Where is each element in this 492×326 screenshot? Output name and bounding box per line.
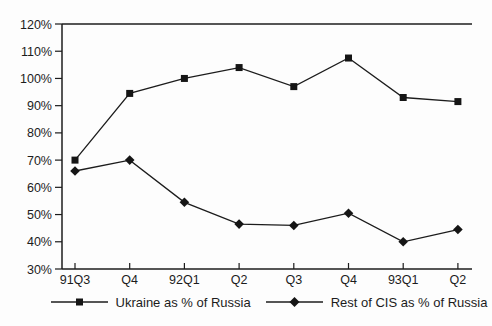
rest-of-cis-point-marker: [453, 225, 463, 235]
x-tick-label: 91Q3: [60, 273, 91, 287]
y-tick-label: 110%: [21, 45, 52, 59]
y-tick-label: 100%: [20, 72, 52, 86]
y-tick-label: 80%: [27, 126, 52, 140]
line-chart-plot: 30%40%50%60%70%80%90%100%110%120%91Q3Q49…: [0, 0, 492, 290]
legend-item-ukraine: Ukraine as % of Russia: [51, 295, 251, 310]
rest-of-cis-line: [75, 160, 458, 242]
square-marker-icon: [51, 296, 108, 308]
x-tick-label: Q4: [121, 273, 138, 287]
ukraine-point-marker: [126, 90, 133, 97]
chart-legend: Ukraine as % of Russia Rest of CIS as % …: [0, 290, 492, 314]
rest-of-cis-point-marker: [70, 166, 80, 176]
ukraine-point-marker: [72, 157, 79, 164]
rest-of-cis-point-marker: [398, 237, 408, 247]
y-tick-label: 70%: [27, 154, 52, 168]
ukraine-point-marker: [400, 94, 407, 101]
rest-of-cis-point-marker: [344, 208, 354, 218]
x-tick-label: Q3: [285, 273, 302, 287]
y-tick-label: 120%: [20, 18, 52, 32]
y-tick-label: 90%: [27, 99, 52, 113]
ukraine-point-marker: [454, 98, 461, 105]
legend-label-ukraine: Ukraine as % of Russia: [116, 295, 251, 310]
x-tick-label: 93Q1: [388, 273, 419, 287]
ukraine-point-marker: [290, 83, 297, 90]
y-tick-label: 40%: [27, 235, 52, 249]
x-tick-label: Q2: [231, 273, 248, 287]
x-tick-label: 92Q1: [169, 273, 200, 287]
legend-item-rest-of-cis: Rest of CIS as % of Russia: [266, 295, 488, 310]
ukraine-point-marker: [345, 55, 352, 62]
ukraine-point-marker: [236, 64, 243, 71]
diamond-marker-icon: [266, 296, 323, 308]
x-tick-label: Q2: [450, 273, 467, 287]
rest-of-cis-point-marker: [234, 219, 244, 229]
chart-figure: 30%40%50%60%70%80%90%100%110%120%91Q3Q49…: [0, 0, 492, 326]
ukraine-line: [75, 58, 458, 160]
y-tick-label: 60%: [27, 181, 52, 195]
y-tick-label: 50%: [27, 208, 52, 222]
rest-of-cis-point-marker: [289, 221, 299, 231]
ukraine-point-marker: [181, 75, 188, 82]
legend-label-rest-of-cis: Rest of CIS as % of Russia: [331, 295, 488, 310]
y-tick-label: 30%: [27, 263, 52, 277]
x-tick-label: Q4: [340, 273, 357, 287]
